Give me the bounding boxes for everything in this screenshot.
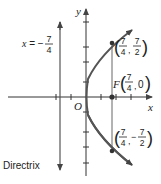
svg-text:7: 7: [121, 127, 126, 137]
svg-text:,: ,: [128, 45, 131, 55]
focus-label: F ( 7 4 , 0 ): [112, 72, 151, 93]
directrix-equation: x = −: [21, 38, 44, 49]
directrix-numerator: 7: [46, 34, 51, 44]
svg-text:2: 2: [135, 47, 140, 57]
svg-text:0: 0: [138, 79, 144, 90]
svg-text:(: (: [114, 37, 120, 57]
svg-text:7: 7: [135, 36, 140, 46]
svg-text:(: (: [114, 128, 120, 148]
focus-point: [109, 94, 114, 99]
origin-label: O: [74, 100, 82, 112]
svg-text:7: 7: [121, 36, 126, 46]
parabola-diagram: y x O x = − 7 4 Directrix ( 7 4 , 7 2 ) …: [0, 0, 161, 184]
svg-text:−: −: [131, 132, 136, 142]
svg-text:4: 4: [121, 47, 126, 57]
point-upper-label: ( 7 4 , 7 2 ): [114, 36, 148, 57]
directrix-label: Directrix: [3, 160, 40, 171]
svg-text:4: 4: [127, 83, 132, 93]
svg-text:7: 7: [140, 127, 145, 137]
point-lower: [110, 149, 115, 154]
parabola-lower-arrow: [88, 115, 132, 165]
svg-text:): ): [147, 128, 153, 148]
svg-text:): ): [145, 73, 151, 93]
directrix-denominator: 4: [46, 45, 51, 55]
svg-text:4: 4: [121, 138, 126, 148]
svg-text:7: 7: [127, 72, 132, 82]
svg-text:F: F: [112, 78, 120, 90]
svg-text:2: 2: [140, 138, 145, 148]
svg-text:): ): [142, 37, 148, 57]
y-axis-label: y: [75, 5, 81, 17]
svg-text:(: (: [120, 73, 126, 93]
point-lower-label: ( 7 4 , − 7 2 ): [114, 127, 153, 148]
x-axis-label: x: [147, 101, 153, 113]
svg-text:,: ,: [134, 81, 137, 91]
